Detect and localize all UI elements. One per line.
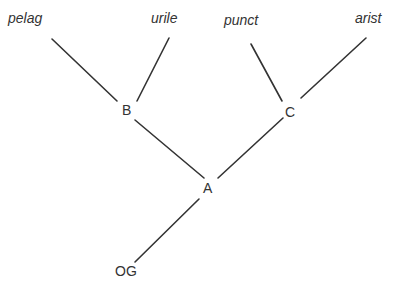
edge-urile-B	[137, 38, 169, 101]
leaf-label-arist: arist	[355, 11, 381, 25]
edge-C-A	[218, 118, 283, 178]
edge-A-OG	[135, 199, 199, 262]
tree-edges	[0, 0, 406, 295]
edge-punct-C	[251, 44, 282, 101]
outgroup-label: OG	[115, 264, 137, 278]
leaf-label-punct: punct	[224, 13, 258, 27]
node-label-A: A	[203, 181, 212, 195]
edge-arist-C	[301, 38, 366, 98]
node-label-C: C	[285, 105, 295, 119]
node-label-B: B	[122, 103, 131, 117]
edge-pelag-B	[52, 39, 117, 101]
edge-B-A	[135, 120, 204, 178]
leaf-label-urile: urile	[151, 11, 177, 25]
leaf-label-pelag: pelag	[8, 11, 42, 25]
